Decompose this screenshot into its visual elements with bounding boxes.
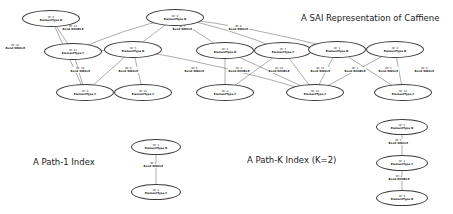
main-graph-node[interactable]: ID: 3ElementType N [196, 42, 254, 59]
node-element-type-label: ElementType N [214, 51, 237, 54]
node-element-type-label: ElementType N [391, 198, 414, 201]
main-graph-node[interactable]: ID: 9ElementType C [56, 84, 114, 101]
edge-bond-label: Bond DOUBLE [63, 28, 84, 31]
node-element-type-label: ElementType N [326, 50, 349, 53]
edge-bond-label: Bond SINGLE [389, 142, 409, 145]
main-graph-node[interactable]: ID: 2ElementType C [196, 84, 254, 101]
path1-node[interactable]: ID: 2ElementType C [131, 184, 181, 200]
pathk-node[interactable]: ID: 2ElementType C [376, 155, 428, 171]
node-element-type-label: ElementType C [391, 163, 413, 166]
main-graph-node[interactable]: ID: 11ElementType C [44, 43, 102, 60]
main-graph-edge-label: ID: 6Bond SINGLE [184, 67, 205, 73]
pathk-edge-label: ID: 2Bond DOUBLE [388, 175, 410, 181]
path1-edge-label: ID: 1Bond SINGLE [143, 162, 164, 168]
edge-bond-label: Bond DOUBLE [229, 70, 250, 73]
edge-bond-label: Bond SINGLE [173, 28, 193, 31]
main-graph-edge-label: ID: 10Bond SINGLE [70, 67, 91, 73]
main-graph-edge-label: ID: 5Bond SINGLE [378, 67, 399, 73]
edge-bond-label: Bond SINGLE [415, 70, 435, 73]
node-element-type-label: ElementType C [392, 93, 414, 96]
node-element-type-label: ElementType N [40, 19, 63, 22]
edge-bond-label: Bond DOUBLE [269, 70, 290, 73]
pathk-edge-label: ID: 1Bond SINGLE [388, 139, 409, 145]
pathk-node[interactable]: ID: 1ElementType N [376, 119, 428, 135]
path1-index-caption: A Path-1 Index [33, 157, 95, 167]
main-graph-edge-label: ID: 8Bond SINGLE [228, 25, 249, 31]
edge-bond-label: Bond SINGLE [379, 70, 399, 73]
node-element-type-label: ElementType N [164, 18, 187, 21]
diagram-canvas: ID: 6ElementType NID: 4ElementType NID: … [0, 0, 453, 214]
node-element-type-label: ElementType C [62, 52, 84, 55]
main-graph-node[interactable]: ID: 6ElementType N [22, 10, 80, 27]
edge-bond-label: Bond DOUBLE [389, 178, 410, 181]
main-graph-edge-label: ID: 15Bond SINGLE [310, 67, 331, 73]
path1-node[interactable]: ID: 1ElementType N [131, 139, 181, 155]
edge-layer [0, 0, 453, 214]
edge-bond-label: Bond SINGLE [229, 28, 249, 31]
main-graph-edge-label: ID: 3Bond SINGLE [414, 67, 435, 73]
main-graph-edge-label: ID: 14Bond DOUBLE [268, 67, 290, 73]
edge-bond-label: Bond SINGLE [311, 70, 331, 73]
node-element-type-label: ElementType N [391, 127, 414, 130]
pathk-index-caption: A Path-K Index (K=2) [247, 155, 336, 165]
node-element-type-label: ElementType C [304, 93, 326, 96]
main-graph-node[interactable]: ID: 4ElementType N [146, 9, 204, 26]
edge-bond-label: Bond SINGLE [144, 165, 164, 168]
node-element-type-label: ElementType N [122, 50, 145, 53]
edge-bond-label: Bond DOUBLE [345, 70, 366, 73]
edge-bond-label: Bond SINGLE [6, 47, 26, 50]
main-graph-node[interactable]: ID: 13ElementType C [286, 84, 344, 101]
main-graph-node[interactable]: ID: 12ElementType C [114, 84, 172, 101]
main-graph-node[interactable]: ID: 8ElementType N [366, 41, 424, 58]
main-graph-edge-label: ID: 11Bond SINGLE [5, 44, 26, 50]
node-element-type-label: ElementType C [74, 93, 96, 96]
node-element-type-label: ElementType C [145, 192, 167, 195]
main-graph-caption: A SAI Representation of Caffiene [301, 13, 439, 23]
main-graph-edge-label: ID: 9Bond SINGLE [118, 67, 139, 73]
node-element-type-label: ElementType N [145, 147, 168, 150]
main-graph-node[interactable]: ID: 1ElementType N [308, 41, 366, 58]
pathk-node[interactable]: ID: 3ElementType N [376, 190, 428, 206]
edge-bond-label: Bond SINGLE [185, 70, 205, 73]
main-graph-node[interactable]: ID: 5ElementType N [104, 41, 162, 58]
main-graph-edge-label: ID: 2Bond DOUBLE [228, 67, 250, 73]
node-element-type-label: ElementType C [132, 93, 154, 96]
node-element-type-label: ElementType N [384, 50, 407, 53]
edge-bond-label: Bond SINGLE [119, 70, 139, 73]
node-element-type-label: ElementType C [214, 93, 236, 96]
main-graph-node[interactable]: ID: 14ElementType C [374, 84, 432, 101]
main-graph-edge-label: ID: 1Bond DOUBLE [344, 67, 366, 73]
main-graph-node[interactable]: ID: 7ElementType C [254, 42, 312, 59]
node-element-type-label: ElementType C [272, 51, 294, 54]
edge-bond-label: Bond SINGLE [71, 70, 91, 73]
